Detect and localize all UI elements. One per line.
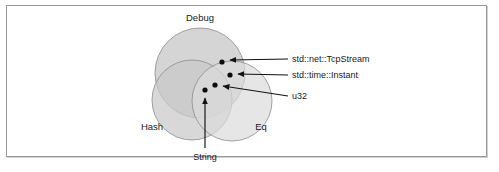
venn-diagram: Debug Hash Eq std::net::TcpStream std::t… bbox=[0, 0, 499, 172]
callout-label-u32: u32 bbox=[292, 91, 307, 101]
figure-root: Debug Hash Eq std::net::TcpStream std::t… bbox=[0, 0, 499, 172]
venn-dot-instant bbox=[227, 72, 232, 77]
venn-dot-tcpstream bbox=[219, 59, 224, 64]
venn-label-hash: Hash bbox=[141, 121, 163, 132]
venn-dot-string bbox=[202, 87, 207, 92]
venn-dot-u32 bbox=[212, 82, 217, 87]
venn-circles bbox=[152, 28, 272, 141]
callout-label-instant: std::time::Instant bbox=[292, 70, 359, 80]
callout-label-string: String bbox=[193, 152, 217, 162]
venn-label-eq: Eq bbox=[255, 121, 267, 132]
callout-label-tcpstream: std::net::TcpStream bbox=[292, 54, 370, 64]
venn-label-debug: Debug bbox=[186, 12, 214, 23]
